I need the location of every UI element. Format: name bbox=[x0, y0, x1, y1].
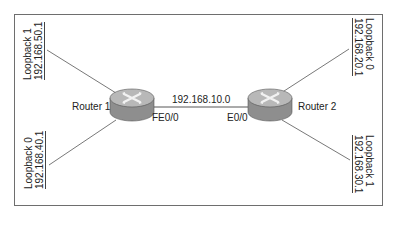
loopback-r2-lo1: Loopback 1 192.168.30.1 bbox=[352, 135, 375, 193]
link-r2-loopback0 bbox=[281, 49, 349, 93]
link-r1-loopback1 bbox=[47, 50, 116, 93]
topology-lines bbox=[0, 0, 395, 234]
loopback-address: 192.168.30.1 bbox=[352, 135, 364, 193]
router-2-icon bbox=[248, 89, 292, 121]
link-r2-loopback1 bbox=[282, 120, 350, 160]
loopback-name: Loopback 0 bbox=[364, 18, 375, 70]
loopback-name: Loopback 0 bbox=[23, 137, 34, 189]
router-1-label: Router 1 bbox=[72, 101, 110, 112]
router-2-label: Router 2 bbox=[298, 101, 336, 112]
loopback-r1-lo0: Loopback 0 192.168.40.1 bbox=[23, 131, 46, 189]
loopback-name: Loopback 1 bbox=[22, 28, 33, 80]
link-network-label: 192.168.10.0 bbox=[172, 94, 230, 105]
loopback-address: 192.168.50.1 bbox=[33, 22, 45, 80]
loopback-name: Loopback 1 bbox=[364, 135, 375, 187]
loopback-r1-lo1: Loopback 1 192.168.50.1 bbox=[22, 22, 45, 80]
router-1-interface-label: FE0/0 bbox=[152, 112, 179, 123]
loopback-r2-lo0: Loopback 0 192.168.20.1 bbox=[352, 18, 375, 76]
link-r1-loopback0 bbox=[49, 120, 116, 165]
router-2-interface-label: E0/0 bbox=[227, 112, 248, 123]
loopback-address: 192.168.20.1 bbox=[352, 18, 364, 76]
loopback-address: 192.168.40.1 bbox=[34, 131, 46, 189]
router-1-icon bbox=[110, 89, 154, 121]
